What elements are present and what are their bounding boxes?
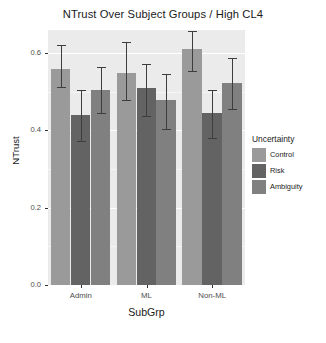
error-bar xyxy=(192,31,193,71)
bar xyxy=(222,83,241,285)
legend-swatch xyxy=(252,148,266,162)
error-bar-cap-lower xyxy=(228,109,237,110)
bar xyxy=(137,88,156,285)
y-tick-label: 0.6 xyxy=(19,48,41,57)
error-bar-cap-upper xyxy=(122,42,131,43)
error-bar-cap-lower xyxy=(97,113,106,114)
error-bar xyxy=(81,90,82,141)
legend-item[interactable]: Risk xyxy=(252,163,326,178)
bar xyxy=(51,69,70,285)
error-bar-cap-lower xyxy=(208,138,217,139)
error-bar xyxy=(212,90,213,139)
error-bar-cap-lower xyxy=(122,100,131,101)
legend-items: ControlRiskAmbiguity xyxy=(252,147,326,194)
bar xyxy=(91,90,110,285)
plot-panel xyxy=(48,30,245,285)
error-bar-cap-upper xyxy=(228,58,237,59)
legend-item[interactable]: Ambiguity xyxy=(252,179,326,194)
error-bar xyxy=(61,45,62,86)
x-tick-label: Admin xyxy=(46,291,116,300)
y-tick-label: 0.2 xyxy=(19,203,41,212)
error-bar-cap-lower xyxy=(162,129,171,130)
error-bar-cap-upper xyxy=(57,45,66,46)
error-bar xyxy=(101,67,102,113)
x-tick-mark xyxy=(212,285,213,288)
bar-chart: NTrust Over Subject Groups / High CL4 NT… xyxy=(0,0,326,343)
gridline-major xyxy=(48,53,245,54)
error-bar-cap-lower xyxy=(188,71,197,72)
error-bar-cap-upper xyxy=(77,90,86,91)
error-bar-cap-upper xyxy=(188,31,197,32)
legend-item[interactable]: Control xyxy=(252,147,326,162)
legend-swatch xyxy=(252,180,266,194)
error-bar xyxy=(166,74,167,128)
legend-swatch xyxy=(252,164,266,178)
x-tick-label: Non-ML xyxy=(177,291,247,300)
legend-label: Ambiguity xyxy=(270,182,302,191)
error-bar-cap-lower xyxy=(77,141,86,142)
x-axis-title: SubGrp xyxy=(48,306,245,318)
chart-title: NTrust Over Subject Groups / High CL4 xyxy=(0,8,326,20)
error-bar xyxy=(126,42,127,100)
error-bar-cap-lower xyxy=(142,116,151,117)
x-tick-mark xyxy=(147,285,148,288)
legend-title: Uncertainty xyxy=(252,134,326,144)
legend: Uncertainty ControlRiskAmbiguity xyxy=(252,134,326,195)
x-tick-mark xyxy=(81,285,82,288)
error-bar-cap-lower xyxy=(57,87,66,88)
error-bar xyxy=(232,58,233,109)
error-bar-cap-upper xyxy=(142,64,151,65)
bar xyxy=(117,73,136,285)
y-tick-label: 0.4 xyxy=(19,125,41,134)
error-bar xyxy=(146,64,147,115)
y-tick-label: 0.0 xyxy=(19,280,41,289)
legend-label: Risk xyxy=(270,166,284,175)
x-tick-label: ML xyxy=(112,291,182,300)
error-bar-cap-upper xyxy=(97,67,106,68)
bar xyxy=(182,49,201,285)
error-bar-cap-upper xyxy=(162,74,171,75)
error-bar-cap-upper xyxy=(208,90,217,91)
legend-label: Control xyxy=(270,150,294,159)
